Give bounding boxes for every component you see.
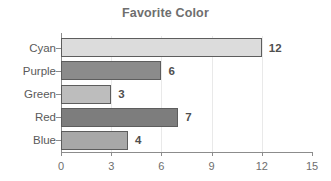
bar-chart: Favorite Color CyanPurpleGreenRedBlue 12… [0, 0, 331, 181]
bar-blue[interactable] [61, 131, 128, 150]
bar-value-label: 6 [168, 65, 174, 77]
bar-green[interactable] [61, 85, 111, 104]
x-axis-tick-label: 0 [46, 160, 76, 172]
x-axis-tick [312, 152, 313, 156]
y-axis-tick [56, 117, 61, 118]
y-axis-label-purple: Purple [2, 65, 56, 77]
bar-row: 12 [61, 38, 312, 57]
y-axis-label-cyan: Cyan [2, 42, 56, 54]
bar-row: 7 [61, 108, 312, 127]
x-axis-tick [212, 152, 213, 156]
x-axis-line [61, 152, 313, 153]
bar-row: 4 [61, 131, 312, 150]
y-axis-label-green: Green [2, 88, 56, 100]
bar-row: 3 [61, 85, 312, 104]
y-axis-tick [56, 94, 61, 95]
x-axis-tick [161, 152, 162, 156]
y-axis-category-labels: CyanPurpleGreenRedBlue [0, 0, 56, 181]
x-axis-tick-label: 15 [297, 160, 327, 172]
bar-value-label: 3 [118, 88, 124, 100]
x-axis-tick [262, 152, 263, 156]
x-axis-tick-label: 3 [96, 160, 126, 172]
y-axis-tick [56, 71, 61, 72]
bar-value-label: 12 [269, 42, 282, 54]
y-axis-label-blue: Blue [2, 134, 56, 146]
x-axis-tick-label: 12 [247, 160, 277, 172]
bar-value-label: 7 [185, 111, 191, 123]
plot-area: 126374 [61, 36, 312, 152]
bar-cyan[interactable] [61, 38, 262, 57]
y-axis-label-red: Red [2, 111, 56, 123]
bar-red[interactable] [61, 108, 178, 127]
x-axis-tick [111, 152, 112, 156]
bar-purple[interactable] [61, 61, 161, 80]
bar-value-label: 4 [135, 134, 141, 146]
y-axis-tick [56, 48, 61, 49]
x-axis-tick-label: 9 [197, 160, 227, 172]
x-axis-tick-label: 6 [146, 160, 176, 172]
x-axis-tick [61, 152, 62, 156]
bar-row: 6 [61, 61, 312, 80]
y-axis-tick [56, 140, 61, 141]
